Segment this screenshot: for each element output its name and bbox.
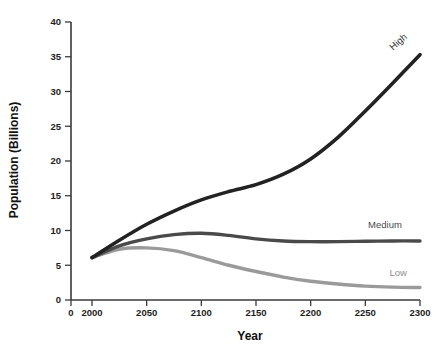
x-tick-label: 2050 — [136, 307, 157, 318]
y-tick-label: 35 — [50, 51, 61, 62]
y-tick-label: 25 — [50, 121, 61, 132]
y-axis-tick-group: 0510152025303540 — [50, 16, 71, 305]
y-tick-label: 0 — [56, 294, 61, 305]
x-axis-tick-group: 02000205021002150220022502300 — [68, 300, 430, 318]
x-tick-label: 2300 — [409, 307, 430, 318]
y-tick-label: 5 — [56, 260, 62, 271]
y-tick-label: 15 — [50, 190, 61, 201]
x-tick-label: 2150 — [245, 307, 266, 318]
series-line-medium — [92, 233, 420, 257]
series-label-medium: Medium — [368, 219, 402, 230]
x-tick-label: 2100 — [191, 307, 212, 318]
x-tick-label: 2250 — [355, 307, 376, 318]
y-tick-label: 10 — [50, 225, 61, 236]
series-label-high: High — [387, 31, 409, 52]
x-origin-label: 0 — [68, 307, 73, 318]
x-axis-title: Year — [237, 329, 263, 343]
population-projection-chart: 0510152025303540 02000205021002150220022… — [0, 0, 444, 350]
series-curve-group — [92, 55, 420, 288]
x-tick-label: 2000 — [81, 307, 102, 318]
x-tick-label: 2200 — [300, 307, 321, 318]
y-tick-label: 40 — [50, 16, 61, 27]
y-tick-label: 30 — [50, 86, 61, 97]
series-label-low: Low — [389, 267, 407, 278]
chart-plot-area: 0510152025303540 02000205021002150220022… — [0, 0, 444, 350]
series-line-low — [92, 248, 420, 288]
y-axis-title: Population (Billions) — [7, 102, 21, 219]
y-tick-label: 20 — [50, 155, 61, 166]
